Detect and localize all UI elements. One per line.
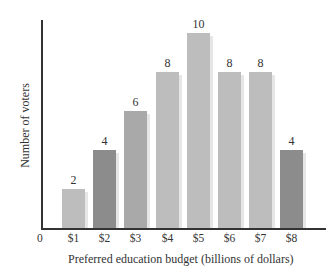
x-tick-label: $1 — [59, 232, 89, 244]
bar-4 — [156, 72, 179, 228]
x-axis-line — [41, 228, 326, 230]
x-tick-label: $6 — [215, 232, 245, 244]
bar-5 — [187, 33, 210, 228]
origin-label: 0 — [37, 232, 43, 244]
bar-value-label: 8 — [153, 56, 183, 71]
x-tick-label: $5 — [184, 232, 214, 244]
bar-value-label: 2 — [59, 173, 89, 188]
x-axis-label: Preferred education budget (billions of … — [68, 252, 294, 267]
bar-value-label: 10 — [184, 17, 214, 32]
x-tick-label: $2 — [90, 232, 120, 244]
bar-8 — [280, 150, 303, 228]
x-tick-label: $4 — [153, 232, 183, 244]
x-tick-label: $8 — [277, 232, 307, 244]
bar-7 — [249, 72, 272, 228]
bar-value-label: 4 — [277, 134, 307, 149]
bar-2 — [93, 150, 116, 228]
bar-6 — [218, 72, 241, 228]
x-tick-label: $7 — [246, 232, 276, 244]
y-axis-label: Number of voters — [18, 76, 33, 176]
bar-3 — [124, 111, 147, 228]
bar-1 — [62, 189, 85, 228]
bar-value-label: 4 — [90, 134, 120, 149]
bar-chart: Number of voters 0 Preferred education b… — [0, 0, 331, 274]
y-axis-line — [41, 20, 43, 229]
x-tick-label: $3 — [121, 232, 151, 244]
bar-value-label: 8 — [246, 56, 276, 71]
bar-value-label: 6 — [121, 95, 151, 110]
bar-value-label: 8 — [215, 56, 245, 71]
